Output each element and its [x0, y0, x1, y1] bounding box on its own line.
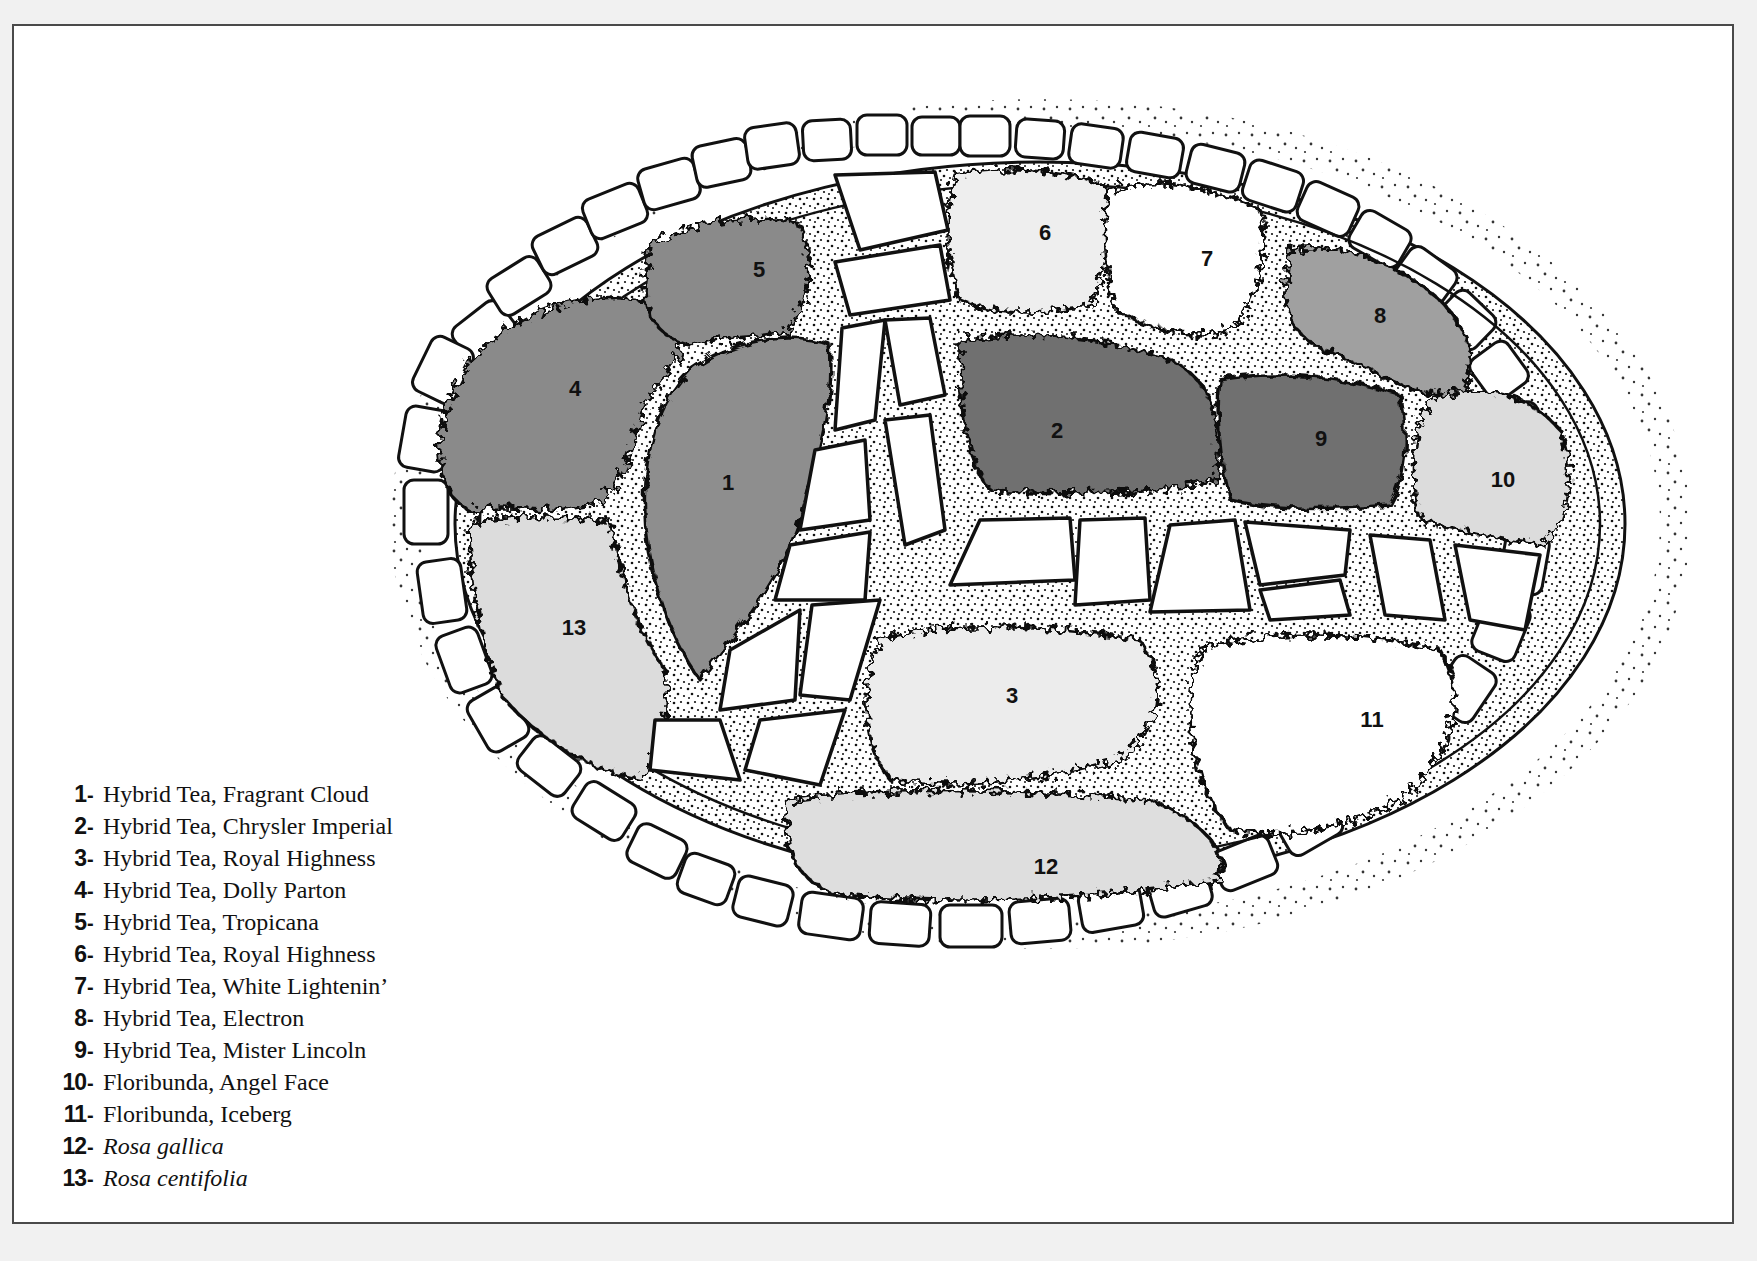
legend-number: 2	[40, 810, 86, 842]
bed-9	[1218, 375, 1405, 508]
bed-label-8: 8	[1374, 303, 1386, 328]
legend-item: 11-Floribunda, Iceberg	[40, 1098, 393, 1130]
legend-number: 4	[40, 874, 86, 906]
legend-separator: -	[86, 1099, 101, 1131]
legend-separator: -	[86, 971, 101, 1003]
legend-plant-name: Floribunda, Angel Face	[101, 1066, 329, 1098]
bed-label-12: 12	[1034, 854, 1058, 879]
legend-number: 7	[40, 970, 86, 1002]
bed-label-5: 5	[753, 257, 765, 282]
legend-number: 1	[40, 778, 86, 810]
bed-label-13: 13	[562, 615, 586, 640]
bed-5	[644, 218, 808, 345]
legend-separator: -	[86, 1067, 101, 1099]
bed-label-7: 7	[1201, 246, 1213, 271]
legend-plant-name: Hybrid Tea, Chrysler Imperial	[101, 810, 393, 842]
bed-label-11: 11	[1360, 707, 1383, 732]
bed-label-6: 6	[1039, 220, 1051, 245]
legend-item: 9-Hybrid Tea, Mister Lincoln	[40, 1034, 393, 1066]
legend-separator: -	[86, 843, 101, 875]
bed-label-1: 1	[722, 470, 734, 495]
legend-plant-name: Hybrid Tea, Royal Highness	[101, 842, 376, 874]
bed-label-2: 2	[1051, 418, 1063, 443]
legend-separator: -	[86, 779, 101, 811]
legend-separator: -	[86, 811, 101, 843]
legend-plant-name: Hybrid Tea, Dolly Parton	[101, 874, 346, 906]
bed-7	[1105, 184, 1264, 334]
legend-item: 6-Hybrid Tea, Royal Highness	[40, 938, 393, 970]
legend-plant-name: Hybrid Tea, Tropicana	[101, 906, 319, 938]
legend-number: 6	[40, 938, 86, 970]
legend-plant-name: Floribunda, Iceberg	[101, 1098, 292, 1130]
legend-item: 8-Hybrid Tea, Electron	[40, 1002, 393, 1034]
legend-item: 12-Rosa gallica	[40, 1130, 393, 1162]
legend-separator: -	[86, 1003, 101, 1035]
legend-plant-name: Rosa gallica	[101, 1130, 224, 1162]
legend-separator: -	[86, 1131, 101, 1163]
legend-number: 12	[40, 1130, 86, 1162]
legend-number: 13	[40, 1162, 86, 1194]
legend-item: 7-Hybrid Tea, White Lightenin’	[40, 970, 393, 1002]
legend-item: 13-Rosa centifolia	[40, 1162, 393, 1194]
legend-number: 3	[40, 842, 86, 874]
legend-plant-name: Hybrid Tea, Fragrant Cloud	[101, 778, 369, 810]
legend-separator: -	[86, 1163, 101, 1195]
legend-number: 9	[40, 1034, 86, 1066]
plant-legend: 1-Hybrid Tea, Fragrant Cloud 2-Hybrid Te…	[40, 778, 393, 1194]
legend-separator: -	[86, 875, 101, 907]
legend-plant-name: Rosa centifolia	[101, 1162, 248, 1194]
legend-separator: -	[86, 907, 101, 939]
legend-item: 3-Hybrid Tea, Royal Highness	[40, 842, 393, 874]
legend-number: 5	[40, 906, 86, 938]
bed-label-10: 10	[1491, 467, 1515, 492]
bed-label-4: 4	[569, 376, 582, 401]
bed-label-9: 9	[1315, 426, 1327, 451]
bed-12	[787, 791, 1222, 900]
legend-item: 4-Hybrid Tea, Dolly Parton	[40, 874, 393, 906]
legend-plant-name: Hybrid Tea, White Lightenin’	[101, 970, 388, 1002]
legend-number: 8	[40, 1002, 86, 1034]
legend-plant-name: Hybrid Tea, Electron	[101, 1002, 304, 1034]
legend-number: 10	[40, 1066, 86, 1098]
legend-separator: -	[86, 1035, 101, 1067]
bed-label-3: 3	[1006, 683, 1018, 708]
legend-number: 11	[40, 1098, 86, 1130]
legend-plant-name: Hybrid Tea, Mister Lincoln	[101, 1034, 366, 1066]
legend-plant-name: Hybrid Tea, Royal Highness	[101, 938, 376, 970]
bed-6	[948, 170, 1110, 312]
legend-item: 1-Hybrid Tea, Fragrant Cloud	[40, 778, 393, 810]
legend-item: 2-Hybrid Tea, Chrysler Imperial	[40, 810, 393, 842]
legend-item: 10-Floribunda, Angel Face	[40, 1066, 393, 1098]
legend-separator: -	[86, 939, 101, 971]
legend-item: 5-Hybrid Tea, Tropicana	[40, 906, 393, 938]
